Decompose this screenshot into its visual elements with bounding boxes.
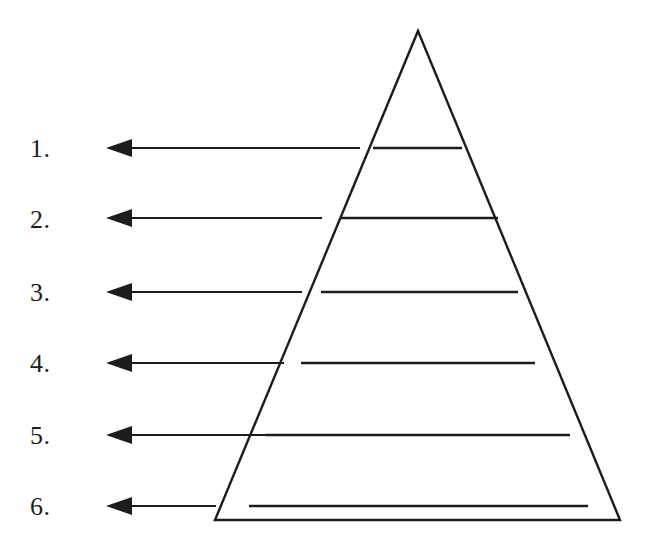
tier-divider-lines bbox=[249, 148, 588, 506]
arrow-head-icon-1 bbox=[106, 139, 132, 157]
arrow-head-icon-3 bbox=[106, 283, 132, 301]
row-number-label-5: 5. bbox=[30, 423, 51, 449]
row-number-label-1: 1. bbox=[30, 136, 51, 162]
pyramid-triangle-outline bbox=[215, 31, 620, 520]
leader-arrow-2 bbox=[106, 209, 322, 227]
row-number-label-4: 4. bbox=[30, 351, 51, 377]
worksheet-canvas: 1.2.3.4.5.6. bbox=[0, 0, 654, 535]
row-number-label-2: 2. bbox=[30, 207, 51, 233]
arrow-head-icon-6 bbox=[106, 497, 132, 515]
arrow-head-icon-2 bbox=[106, 209, 132, 227]
leader-arrow-3 bbox=[106, 283, 302, 301]
arrow-head-icon-4 bbox=[106, 354, 132, 372]
pyramid-diagram bbox=[0, 0, 654, 535]
leader-arrow-6 bbox=[106, 497, 216, 515]
row-number-label-6: 6. bbox=[30, 494, 51, 520]
leader-arrow-lines bbox=[106, 139, 360, 515]
leader-arrow-5 bbox=[106, 426, 266, 444]
row-number-label-3: 3. bbox=[30, 280, 51, 306]
leader-arrow-4 bbox=[106, 354, 284, 372]
leader-arrow-1 bbox=[106, 139, 360, 157]
arrow-head-icon-5 bbox=[106, 426, 132, 444]
